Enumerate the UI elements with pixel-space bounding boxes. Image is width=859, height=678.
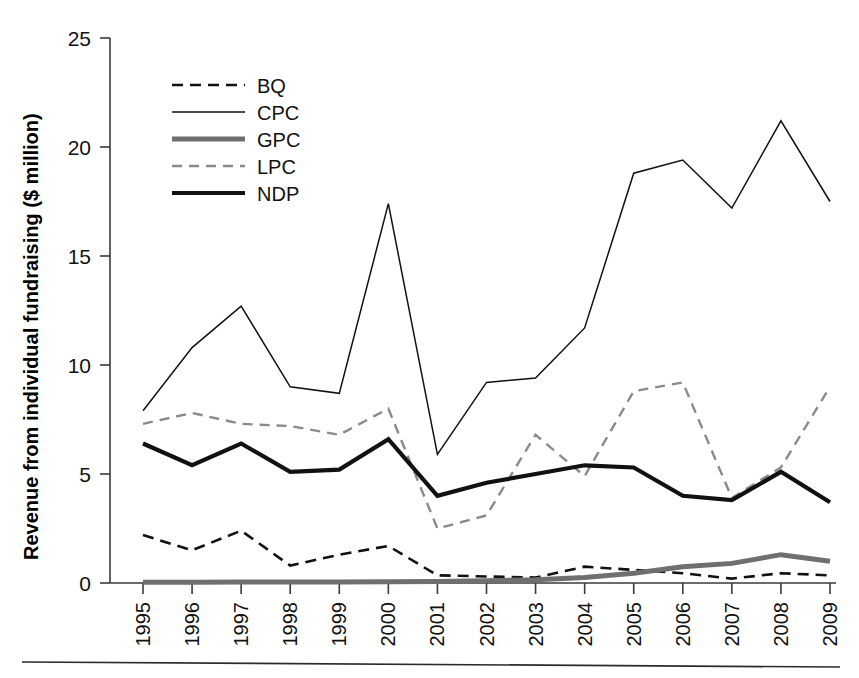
y-axis-label: Revenue from individual fundraising ($ m… [20, 113, 42, 560]
series-group [143, 121, 830, 582]
line-chart: Revenue from individual fundraising ($ m… [0, 0, 859, 678]
series-line-lpc [143, 382, 830, 528]
y-tick-label: 10 [68, 354, 91, 377]
y-axis-ticks: 0510152025 [68, 27, 110, 595]
x-tick-label: 2008 [770, 602, 792, 647]
y-tick-label: 15 [68, 245, 91, 268]
y-tick-label: 0 [79, 572, 91, 595]
x-tick-label: 1997 [230, 602, 252, 647]
x-tick-label: 2005 [623, 602, 645, 647]
footer-rule [22, 662, 840, 667]
legend-label-cpc: CPC [257, 102, 299, 124]
series-line-ndp [143, 439, 830, 502]
legend-label-gpc: GPC [257, 129, 300, 151]
x-tick-label: 2007 [721, 602, 743, 647]
x-tick-label: 1998 [279, 602, 301, 647]
y-tick-label: 20 [68, 136, 91, 159]
series-line-cpc [143, 121, 830, 455]
x-tick-label: 2006 [672, 602, 694, 647]
x-tick-label: 2004 [574, 602, 596, 647]
x-tick-label: 2002 [476, 602, 498, 647]
x-tick-label: 1996 [181, 602, 203, 647]
legend-label-bq: BQ [257, 75, 286, 97]
y-tick-label: 25 [68, 27, 91, 50]
figure-container: Revenue from individual fundraising ($ m… [0, 0, 859, 678]
x-tick-label: 1999 [328, 602, 350, 647]
x-axis-ticks: 1995199619971998199920002001200220032004… [132, 583, 841, 647]
x-tick-label: 2000 [377, 602, 399, 647]
x-tick-label: 2001 [426, 602, 448, 647]
chart-legend: BQCPCGPCLPCNDP [172, 75, 300, 205]
y-tick-label: 5 [79, 463, 91, 486]
x-tick-label: 2003 [525, 602, 547, 647]
legend-label-ndp: NDP [257, 183, 299, 205]
legend-label-lpc: LPC [257, 156, 296, 178]
x-tick-label: 1995 [132, 602, 154, 647]
x-tick-label: 2009 [819, 602, 841, 647]
series-line-bq [143, 531, 830, 579]
